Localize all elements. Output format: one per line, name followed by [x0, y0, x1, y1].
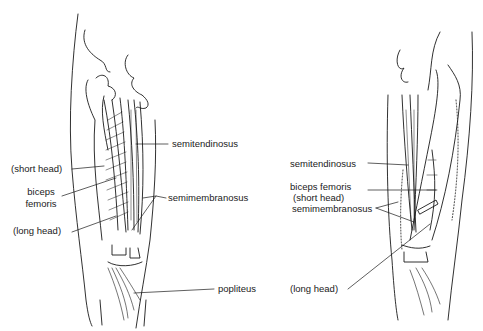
- label-biceps-right-1: biceps femoris: [290, 181, 351, 192]
- leader-lines: [62, 144, 436, 293]
- label-semitendinosus-right: semitendinosus: [290, 158, 356, 169]
- right-leg-drawing: [387, 32, 472, 320]
- label-semimembranosus-left: semimembranosus: [168, 192, 248, 203]
- label-semitendinosus-left: semitendinosus: [172, 138, 238, 149]
- label-semimembranosus-right: semimembranosus: [292, 203, 372, 214]
- left-leg-drawing: [70, 14, 155, 328]
- label-short-head-left: (short head): [11, 163, 62, 174]
- label-biceps-left-2: femoris: [20, 198, 62, 209]
- leg-drawings: [0, 0, 483, 331]
- label-popliteus-left: popliteus: [218, 283, 256, 294]
- anatomy-figure: semitendinosus (short head) biceps femor…: [0, 0, 483, 331]
- label-biceps-left-1: biceps: [24, 186, 58, 197]
- label-long-head-left: (long head): [13, 225, 61, 236]
- label-long-head-right: (long head): [290, 283, 338, 294]
- label-biceps-right-2: (short head): [293, 192, 344, 203]
